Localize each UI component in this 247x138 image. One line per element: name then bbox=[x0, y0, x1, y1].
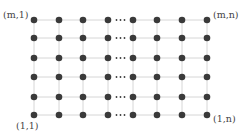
ellipsis-dot bbox=[124, 57, 126, 59]
grid-node bbox=[204, 55, 211, 62]
grid-node bbox=[56, 74, 63, 81]
grid-node bbox=[130, 35, 137, 42]
grid-diagram: (m,1) (m,n) (1,1) (1,n) bbox=[0, 0, 247, 138]
label-bottom-left: (1,1) bbox=[16, 120, 39, 131]
grid-node bbox=[179, 55, 186, 62]
grid-node bbox=[154, 55, 161, 62]
ellipsis-dot bbox=[120, 57, 122, 59]
grid-node bbox=[80, 35, 87, 42]
grid-node bbox=[130, 94, 137, 101]
ellipsis-dot bbox=[120, 96, 122, 98]
ellipsis-dot bbox=[124, 96, 126, 98]
grid-node bbox=[105, 35, 112, 42]
grid-nodes bbox=[31, 17, 211, 119]
grid-node bbox=[154, 74, 161, 81]
grid-node bbox=[105, 17, 112, 24]
label-top-left: (m,1) bbox=[3, 9, 29, 20]
grid-node bbox=[80, 17, 87, 24]
grid-node bbox=[204, 94, 211, 101]
grid-node bbox=[179, 74, 186, 81]
grid-node bbox=[105, 112, 112, 119]
grid-edges bbox=[34, 20, 207, 115]
ellipsis-dot bbox=[124, 19, 126, 21]
grid-node bbox=[179, 17, 186, 24]
grid-node bbox=[154, 17, 161, 24]
grid-node bbox=[179, 35, 186, 42]
grid-node bbox=[56, 17, 63, 24]
grid-node bbox=[179, 94, 186, 101]
ellipsis-dot bbox=[124, 114, 126, 116]
grid-node bbox=[130, 17, 137, 24]
grid-node bbox=[31, 55, 38, 62]
ellipsis-dot bbox=[116, 37, 118, 39]
grid-node bbox=[80, 55, 87, 62]
label-bottom-right: (1,n) bbox=[213, 113, 236, 124]
ellipsis-dot bbox=[116, 114, 118, 116]
ellipsis-dot bbox=[120, 19, 122, 21]
ellipsis-dot bbox=[124, 76, 126, 78]
grid-node bbox=[154, 35, 161, 42]
grid-node bbox=[31, 17, 38, 24]
grid-node bbox=[80, 112, 87, 119]
grid-node bbox=[105, 55, 112, 62]
grid-node bbox=[154, 112, 161, 119]
grid-node bbox=[56, 55, 63, 62]
grid-node bbox=[105, 94, 112, 101]
ellipsis-dot bbox=[120, 114, 122, 116]
grid-node bbox=[80, 94, 87, 101]
ellipsis-dot bbox=[116, 76, 118, 78]
grid-node bbox=[130, 55, 137, 62]
label-top-right: (m,n) bbox=[213, 9, 239, 20]
column-ellipses bbox=[116, 19, 126, 116]
grid-node bbox=[204, 112, 211, 119]
grid-node bbox=[204, 74, 211, 81]
grid-node bbox=[204, 35, 211, 42]
grid-node bbox=[56, 94, 63, 101]
grid-node bbox=[80, 74, 87, 81]
grid-node bbox=[31, 112, 38, 119]
ellipsis-dot bbox=[120, 76, 122, 78]
grid-node bbox=[31, 94, 38, 101]
grid-node bbox=[179, 112, 186, 119]
grid-node bbox=[204, 17, 211, 24]
grid-node bbox=[31, 74, 38, 81]
ellipsis-dot bbox=[116, 57, 118, 59]
grid-node bbox=[31, 35, 38, 42]
ellipsis-dot bbox=[116, 96, 118, 98]
grid-node bbox=[56, 35, 63, 42]
ellipsis-dot bbox=[116, 19, 118, 21]
grid-node bbox=[154, 94, 161, 101]
grid-node bbox=[105, 74, 112, 81]
ellipsis-dot bbox=[124, 37, 126, 39]
grid-node bbox=[130, 74, 137, 81]
ellipsis-dot bbox=[120, 37, 122, 39]
grid-node bbox=[130, 112, 137, 119]
grid-node bbox=[56, 112, 63, 119]
